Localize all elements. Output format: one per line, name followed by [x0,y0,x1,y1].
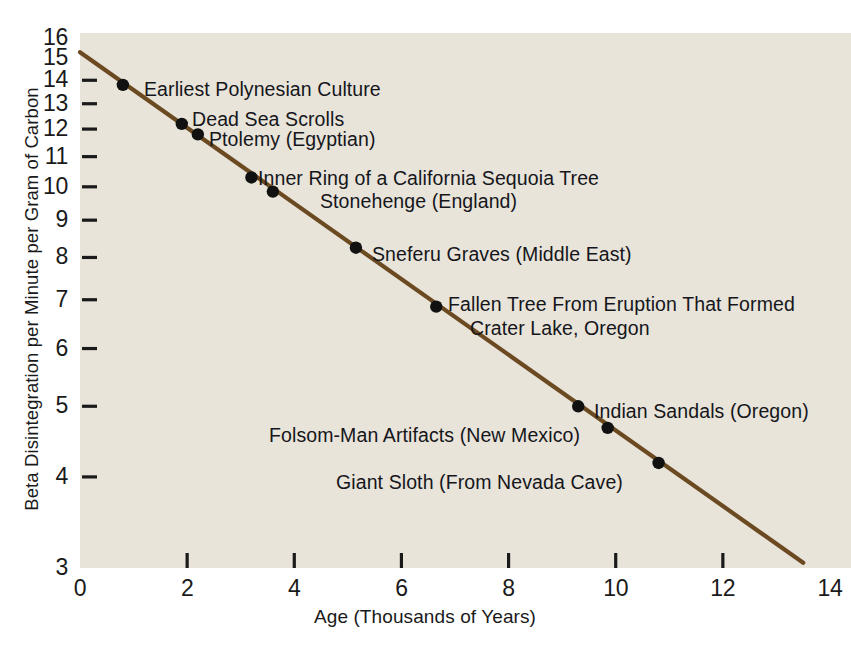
annotation-label: Indian Sandals (Oregon) [594,400,809,423]
x-tick-label: 10 [596,575,636,602]
annotation-label: Folsom-Man Artifacts (New Mexico) [269,424,580,447]
x-tick-label: 12 [703,575,743,602]
annotation-label: Stonehenge (England) [320,190,517,213]
annotation-label: Crater Lake, Oregon [470,317,650,340]
data-point [350,242,362,254]
annotation-label: Ptolemy (Egyptian) [209,128,376,151]
annotation-label: Fallen Tree From Eruption That Formed [448,293,795,316]
x-axis-title: Age (Thousands of Years) [260,606,590,628]
chart-svg [0,0,851,649]
data-point [601,422,613,434]
annotation-label: Sneferu Graves (Middle East) [372,243,632,266]
data-point [245,171,257,183]
x-tick-label: 4 [274,575,314,602]
y-axis-title: Beta Disintegration per Minute per Gram … [21,39,43,559]
chart-figure: 345678910111213141516 02468101214 Earlie… [0,0,851,649]
data-point [176,118,188,130]
annotation-label: Inner Ring of a California Sequoia Tree [258,167,599,190]
x-tick-label: 14 [810,575,850,602]
data-point [652,457,664,469]
x-tick-label: 8 [489,575,529,602]
y-axis-tick-marks [82,80,97,477]
annotation-label: Earliest Polynesian Culture [144,78,381,101]
data-point [430,300,442,312]
x-axis-tick-marks [187,553,723,568]
data-point [572,400,584,412]
x-tick-label: 0 [60,575,100,602]
x-tick-label: 2 [167,575,207,602]
data-point [117,79,129,91]
annotation-label: Giant Sloth (From Nevada Cave) [336,471,623,494]
x-tick-label: 6 [381,575,421,602]
